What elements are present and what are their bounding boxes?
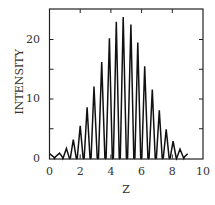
x-tick-label: 0 [46, 165, 53, 178]
x-axis-label: Z [122, 183, 130, 196]
x-tick-label: 8 [169, 165, 176, 178]
y-tick-label: 20 [20, 33, 40, 46]
x-tick-label: 4 [107, 165, 114, 178]
x-tick-label: 6 [138, 165, 145, 178]
y-axis-label: INTENSITY [13, 55, 26, 115]
intensity-curve [50, 17, 188, 159]
x-tick-label: 10 [196, 165, 210, 178]
y-tick-label: 0 [20, 152, 40, 165]
x-tick-label: 2 [77, 165, 84, 178]
